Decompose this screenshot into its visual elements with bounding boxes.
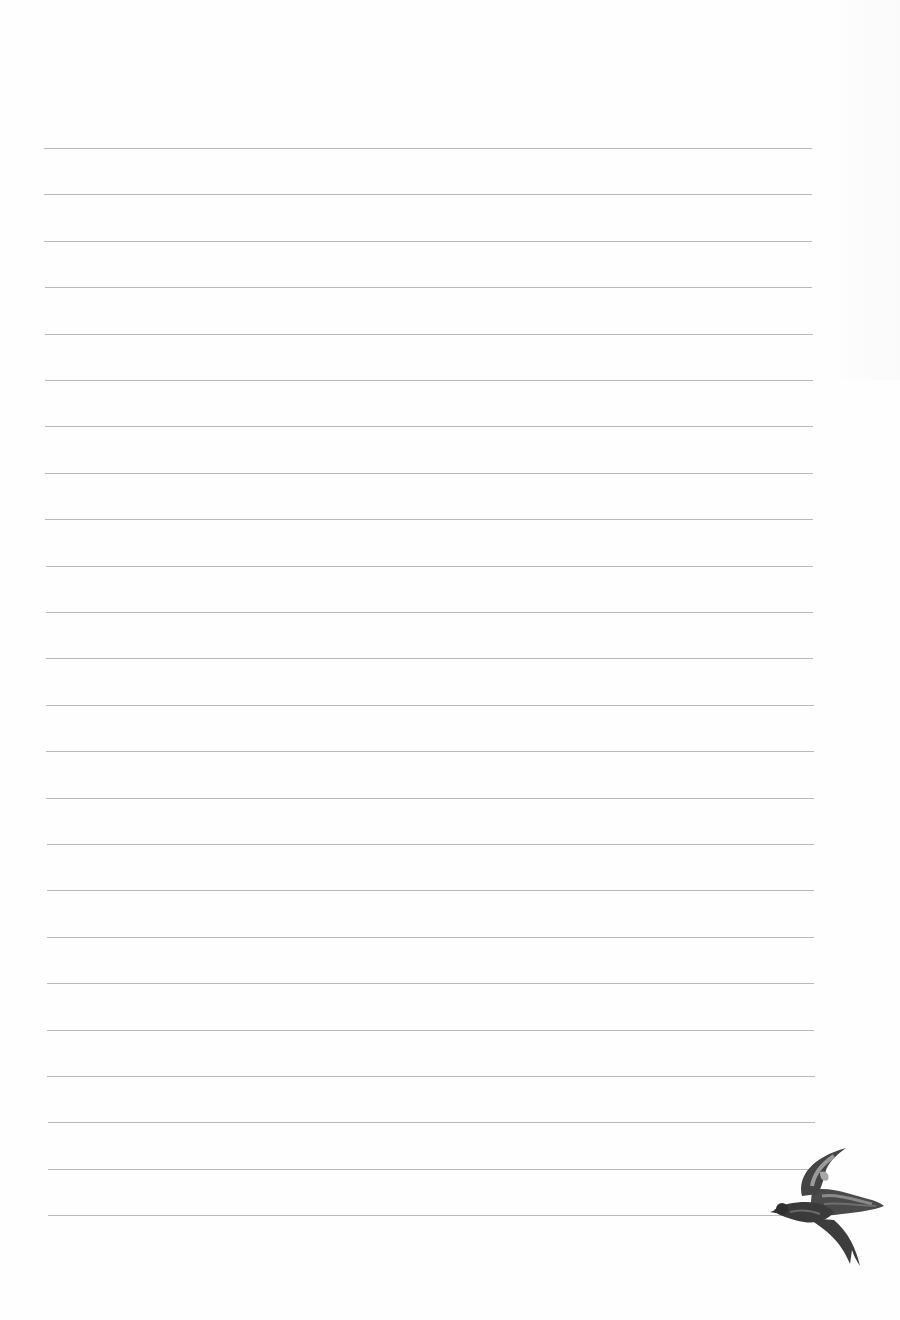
ruled-line xyxy=(45,473,813,474)
ruled-line xyxy=(48,1215,815,1216)
ruled-line xyxy=(47,890,814,891)
paper-texture xyxy=(830,0,900,380)
ruled-line xyxy=(44,148,812,149)
ruled-line xyxy=(47,1030,814,1031)
ruled-line xyxy=(46,705,813,706)
ruled-line xyxy=(45,519,813,520)
ruled-line xyxy=(44,241,812,242)
ruled-line xyxy=(44,194,812,195)
ruled-line xyxy=(47,937,814,938)
ruled-line xyxy=(48,1122,815,1123)
swallow-bird-icon xyxy=(768,1140,892,1270)
ruled-line xyxy=(45,334,813,335)
ruled-line xyxy=(46,658,814,659)
ruled-line xyxy=(47,983,814,984)
ruled-line xyxy=(47,1076,814,1077)
ruled-line xyxy=(45,380,813,381)
ruled-line xyxy=(46,612,814,613)
ruled-line xyxy=(45,426,813,427)
ruled-line xyxy=(48,1169,815,1170)
ruled-line xyxy=(46,566,814,567)
lined-paper xyxy=(0,0,900,1320)
ruled-line xyxy=(47,844,814,845)
ruled-line xyxy=(45,287,813,288)
ruled-line xyxy=(46,798,813,799)
ruled-line xyxy=(46,751,813,752)
